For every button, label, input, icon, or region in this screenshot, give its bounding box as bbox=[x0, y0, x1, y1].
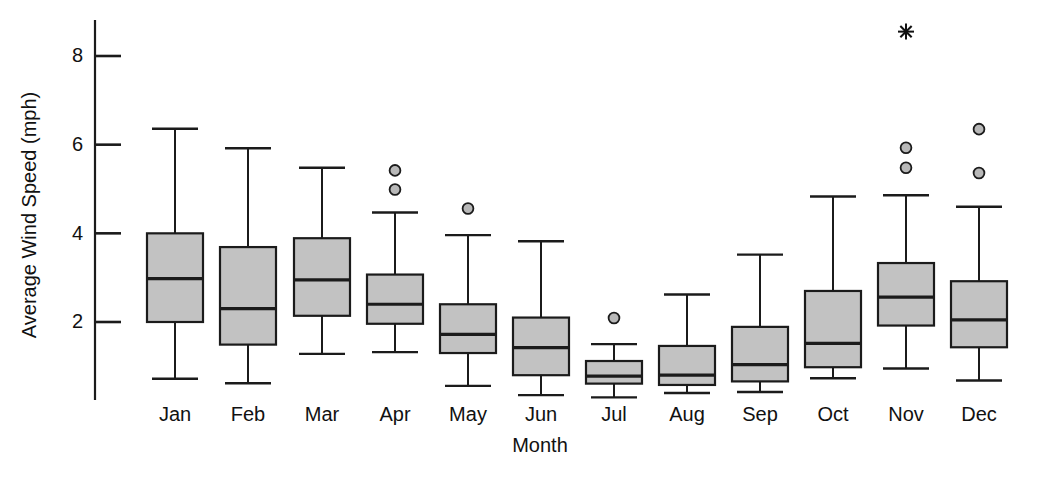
x-axis-tick-label-mar: Mar bbox=[305, 403, 340, 425]
box-iqr[interactable] bbox=[220, 247, 276, 345]
box-plot-group-dec bbox=[951, 124, 1007, 381]
box-iqr[interactable] bbox=[659, 346, 715, 385]
outlier-point[interactable] bbox=[901, 162, 912, 173]
y-axis-title: Average Wind Speed (mph) bbox=[18, 92, 40, 338]
x-axis-tick-label-sep: Sep bbox=[742, 403, 778, 425]
box-plot-group-oct bbox=[805, 197, 861, 379]
outlier-point[interactable] bbox=[463, 203, 474, 214]
box-plot-group-feb bbox=[220, 148, 276, 383]
x-axis-tick-label-jan: Jan bbox=[159, 403, 191, 425]
extreme-outlier-marker[interactable] bbox=[898, 24, 914, 40]
box-plot-group-jul bbox=[586, 313, 642, 398]
x-axis-tick-label-nov: Nov bbox=[888, 403, 924, 425]
box-plot-group-jan bbox=[147, 129, 203, 379]
box-iqr[interactable] bbox=[440, 304, 496, 353]
box-plot-group-apr bbox=[367, 165, 423, 352]
box-iqr[interactable] bbox=[367, 275, 423, 324]
x-axis-tick-label-aug: Aug bbox=[669, 403, 705, 425]
y-axis-tick-label: 6 bbox=[72, 133, 83, 155]
box-plot-group-jun bbox=[513, 241, 569, 395]
box-plot-group-mar bbox=[294, 168, 350, 354]
plot-area bbox=[147, 24, 1007, 398]
x-axis-tick-label-may: May bbox=[449, 403, 487, 425]
x-axis-tick-label-oct: Oct bbox=[817, 403, 849, 425]
x-axis-tick-label-apr: Apr bbox=[379, 403, 410, 425]
boxplot-svg: 8642 JanFebMarAprMayJunJulAugSepOctNovDe… bbox=[0, 0, 1037, 485]
box-iqr[interactable] bbox=[586, 361, 642, 384]
box-iqr[interactable] bbox=[878, 263, 934, 326]
x-axis-tick-label-feb: Feb bbox=[231, 403, 265, 425]
box-iqr[interactable] bbox=[951, 281, 1007, 347]
x-axis-tick-label-jul: Jul bbox=[601, 403, 627, 425]
y-axis-tick-label: 8 bbox=[72, 44, 83, 66]
x-axis-tick-label-dec: Dec bbox=[961, 403, 997, 425]
outlier-point[interactable] bbox=[974, 168, 985, 179]
boxplot-chart: 8642 JanFebMarAprMayJunJulAugSepOctNovDe… bbox=[0, 0, 1037, 485]
box-iqr[interactable] bbox=[805, 291, 861, 367]
box-plot-group-may bbox=[440, 203, 496, 386]
box-iqr[interactable] bbox=[732, 327, 788, 382]
y-axis: 8642 bbox=[72, 20, 121, 400]
outlier-point[interactable] bbox=[974, 124, 985, 135]
box-plot-group-nov bbox=[878, 24, 934, 369]
outlier-point[interactable] bbox=[390, 184, 401, 195]
box-iqr[interactable] bbox=[294, 238, 350, 316]
outlier-point[interactable] bbox=[609, 313, 620, 324]
y-axis-tick-label: 4 bbox=[72, 222, 83, 244]
x-axis: JanFebMarAprMayJunJulAugSepOctNovDec bbox=[159, 403, 997, 425]
box-plot-group-sep bbox=[732, 255, 788, 392]
box-plot-group-aug bbox=[659, 295, 715, 393]
outlier-point[interactable] bbox=[390, 165, 401, 176]
outlier-point[interactable] bbox=[901, 142, 912, 153]
x-axis-tick-label-jun: Jun bbox=[525, 403, 557, 425]
y-axis-tick-label: 2 bbox=[72, 310, 83, 332]
x-axis-title: Month bbox=[512, 434, 568, 456]
